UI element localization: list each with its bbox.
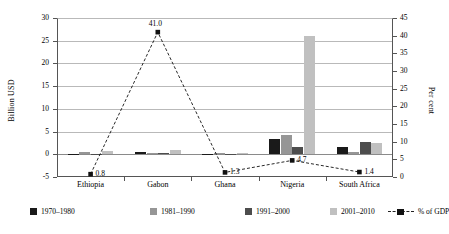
y-axis-left-tick-label: 10 xyxy=(27,105,49,113)
y-axis-right-tick xyxy=(393,177,397,178)
legend-item-label: % of GDP xyxy=(418,207,449,216)
legend-line-swatch xyxy=(388,208,414,215)
line-marker xyxy=(88,172,93,177)
y-axis-left-tick-label: 15 xyxy=(27,82,49,90)
y-axis-right-tick xyxy=(393,71,397,72)
line-marker xyxy=(156,30,161,35)
y-axis-right-tick xyxy=(393,36,397,37)
y-axis-right-tick xyxy=(393,106,397,107)
legend-color-swatch xyxy=(330,208,337,215)
line-path xyxy=(91,32,360,174)
legend-item[interactable]: 1991–2000 xyxy=(245,205,290,217)
line-marker xyxy=(290,158,295,163)
y-axis-right-tick-label: 25 xyxy=(400,85,422,93)
legend-item[interactable]: 2001–2010 xyxy=(330,205,375,217)
legend-color-swatch xyxy=(150,208,157,215)
legend-item[interactable]: % of GDP xyxy=(388,205,449,217)
line-point-label: 4.7 xyxy=(297,155,306,164)
legend-item-label: 1970–1980 xyxy=(41,207,75,216)
y-axis-right-tick-label: 40 xyxy=(400,32,422,40)
legend-item-label: 2001–2010 xyxy=(341,207,375,216)
legend-color-swatch xyxy=(30,208,37,215)
y-axis-right-tick xyxy=(393,18,397,19)
y-axis-right-tick-label: 30 xyxy=(400,67,422,75)
y-axis-left-tick-label: -5 xyxy=(27,173,49,181)
y-axis-left-tick-label: 0 xyxy=(27,150,49,158)
y-axis-right-tick-label: 20 xyxy=(400,102,422,110)
line-point-label: 1.3 xyxy=(230,167,239,176)
legend-item[interactable]: 1970–1980 xyxy=(30,205,75,217)
y-axis-right-tick-label: 45 xyxy=(400,14,422,22)
y-axis-left-title: Billion USD xyxy=(7,66,16,136)
y-axis-left-tick-label: 25 xyxy=(27,37,49,45)
x-axis-category-label: South Africa xyxy=(319,180,399,189)
legend-item-label: 1981–1990 xyxy=(161,207,195,216)
y-axis-right-tick xyxy=(393,53,397,54)
legend-color-swatch xyxy=(245,208,252,215)
y-axis-right-tick xyxy=(393,124,397,125)
y-axis-left-tick-label: 30 xyxy=(27,14,49,22)
plot-area: 0.841.01.34.71.4 xyxy=(57,18,393,177)
line-marker xyxy=(357,170,362,175)
percent-of-gdp-line-series xyxy=(57,18,393,177)
y-axis-left-tick-label: 20 xyxy=(27,59,49,67)
y-axis-right-tick-label: 5 xyxy=(400,155,422,163)
y-axis-right-tick xyxy=(393,142,397,143)
y-axis-left-tick-label: 5 xyxy=(27,128,49,136)
y-axis-right-tick xyxy=(393,89,397,90)
legend-item-label: 1991–2000 xyxy=(256,207,290,216)
y-axis-right-tick-label: 0 xyxy=(400,173,422,181)
line-point-label: 1.4 xyxy=(364,167,373,176)
legend-item[interactable]: 1981–1990 xyxy=(150,205,195,217)
y-axis-right-tick-label: 35 xyxy=(400,49,422,57)
chart-legend: 1970–19801981–19901991–20002001–2010% of… xyxy=(0,205,441,221)
line-point-label: 41.0 xyxy=(149,19,162,28)
line-point-label: 0.8 xyxy=(96,169,105,178)
y-axis-right-tick xyxy=(393,159,397,160)
y-axis-left-tick xyxy=(53,177,57,178)
line-marker xyxy=(223,170,228,175)
y-axis-right-title: Per cent xyxy=(427,66,436,136)
y-axis-right-tick-label: 10 xyxy=(400,138,422,146)
y-axis-right-tick-label: 15 xyxy=(400,120,422,128)
